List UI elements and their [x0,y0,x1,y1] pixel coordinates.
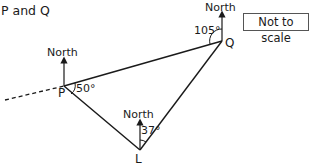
north-label-p: North [47,46,78,59]
north-label-q: North [205,1,236,14]
point-label-l: L [135,152,142,166]
point-label-q: Q [225,36,234,50]
north-label-l: North [123,108,154,121]
dashed-extension-line [5,86,64,100]
point-label-p: P [58,86,65,100]
line-pq [64,41,222,86]
angle-label-l: 37° [141,124,161,137]
angle-arc-l [140,140,146,142]
angle-label-p: 50° [76,82,96,95]
angle-label-q: 105° [194,24,221,37]
bearing-diagram: North North North 50° 105° 37° P Q L [0,0,316,167]
